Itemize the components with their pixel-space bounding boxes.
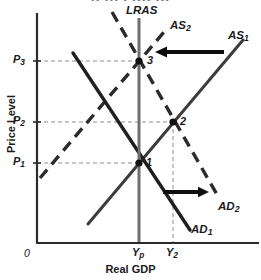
point-label-2: 2 bbox=[180, 116, 186, 127]
x-axis-label: Real GDP bbox=[0, 263, 261, 275]
y-tick-label-p1: P1 bbox=[13, 156, 25, 168]
curve-ad1 bbox=[73, 53, 190, 230]
point-marker-3 bbox=[135, 57, 142, 64]
diagram-canvas bbox=[0, 0, 261, 280]
curve-label-as1: AS1 bbox=[228, 30, 249, 43]
x-tick-label-y2: Y2 bbox=[166, 247, 178, 259]
point-label-1: 1 bbox=[146, 157, 152, 168]
curve-as1 bbox=[88, 40, 243, 224]
axis-origin-label: 0 bbox=[24, 248, 30, 259]
y-tick-label-p2: P2 bbox=[13, 115, 25, 127]
point-marker-1 bbox=[135, 159, 142, 166]
curve-label-ad2: AD2 bbox=[218, 201, 239, 214]
curve-ad2 bbox=[112, 12, 219, 198]
x-tick-label-yp: Yp bbox=[132, 247, 144, 259]
curve-label-ad1: AD1 bbox=[191, 224, 212, 237]
guide-lines bbox=[37, 61, 173, 243]
curve-label-lras: LRAS bbox=[126, 5, 157, 17]
as-shift-arrow bbox=[155, 47, 224, 58]
ad-as-diagram: •• ••• • •••• ••• bbox=[0, 0, 261, 280]
point-label-3: 3 bbox=[147, 55, 153, 66]
ad-shift-arrow bbox=[163, 187, 209, 197]
y-tick-label-p3: P3 bbox=[13, 54, 25, 66]
curve-label-as2: AS2 bbox=[170, 20, 191, 33]
point-marker-2 bbox=[169, 118, 176, 125]
